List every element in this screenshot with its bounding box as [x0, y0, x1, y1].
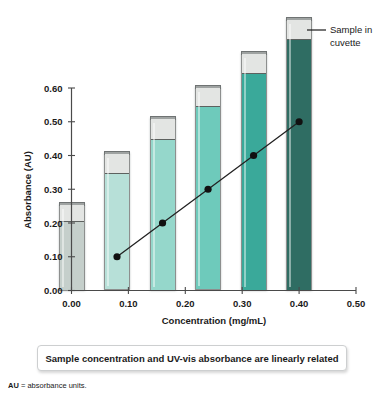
x-axis-tick-label: 0.20	[176, 298, 195, 309]
y-axis-tick-labels: 0.000.100.200.300.400.500.60	[44, 83, 63, 297]
y-axis-tick-label: 0.60	[44, 83, 63, 94]
chart-figure: 0.000.100.200.300.400.500.60 Absorbance …	[0, 0, 384, 340]
x-axis-tick-label: 0.10	[119, 298, 138, 309]
footnote-abbrev: AU	[8, 381, 19, 390]
data-point	[296, 118, 303, 125]
x-axis-title: Concentration (mg/mL)	[162, 315, 267, 326]
x-axis-tick-label: 0.00	[62, 298, 81, 309]
footnote-definition: = absorbance units.	[21, 381, 87, 390]
sample-in-cuvette-label-line1: Sample in	[330, 24, 372, 35]
y-axis-tick-label: 0.00	[44, 285, 63, 296]
y-axis-tick-label: 0.10	[44, 251, 63, 262]
data-point	[204, 186, 211, 193]
y-axis-tick-label: 0.20	[44, 218, 63, 229]
x-axis-tick-label: 0.40	[290, 298, 309, 309]
y-axis: 0.000.100.200.300.400.500.60 Absorbance …	[22, 83, 75, 297]
x-axis-tick-label: 0.50	[347, 298, 366, 309]
sample-in-cuvette-label-line2: cuvette	[330, 37, 361, 48]
x-axis: 0.000.100.200.300.400.50 Concentration (…	[62, 287, 365, 326]
y-axis-tick-label: 0.30	[44, 184, 63, 195]
y-axis-title: Absorbance (AU)	[22, 151, 33, 229]
y-axis-tick-label: 0.50	[44, 116, 63, 127]
caption-box: Sample concentration and UV-vis absorban…	[37, 345, 347, 371]
data-point	[159, 219, 166, 226]
plot-canvas: 0.000.100.200.300.400.500.60 Absorbance …	[0, 0, 384, 340]
data-series	[113, 118, 302, 260]
caption-text: Sample concentration and UV-vis absorban…	[45, 353, 338, 364]
x-axis-tick-labels: 0.000.100.200.300.400.50	[62, 298, 365, 309]
data-point	[250, 152, 257, 159]
footnote: AU = absorbance units.	[8, 381, 87, 390]
x-axis-tick-label: 0.30	[233, 298, 252, 309]
y-axis-tick-label: 0.40	[44, 150, 63, 161]
data-point	[113, 253, 120, 260]
